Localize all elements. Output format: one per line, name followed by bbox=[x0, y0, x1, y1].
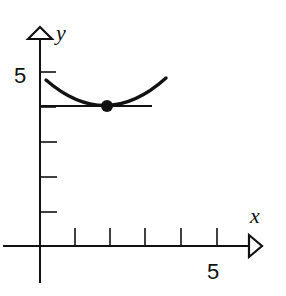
chart: y x 5 5 bbox=[0, 0, 286, 296]
x-axis-arrow-icon bbox=[249, 235, 262, 257]
y-ticks bbox=[40, 72, 57, 212]
x-tick-label-5: 5 bbox=[207, 259, 219, 284]
y-axis-arrow-icon bbox=[28, 27, 52, 39]
y-axis-label: y bbox=[54, 20, 66, 45]
y-tick-label-5: 5 bbox=[14, 63, 26, 88]
x-ticks bbox=[75, 228, 217, 246]
x-axis-label: x bbox=[249, 203, 260, 228]
minimum-point bbox=[101, 100, 113, 112]
